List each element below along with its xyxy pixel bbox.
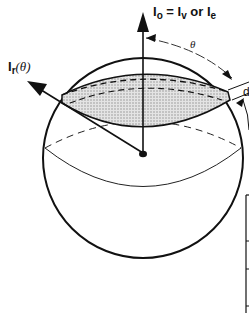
radial-arrowhead (27, 81, 47, 96)
theta-label: θ (190, 38, 195, 50)
vertical-arrowhead (137, 12, 149, 32)
theta-arc (146, 38, 232, 78)
sphere-diagram (0, 0, 249, 313)
theta-arc-arrowhead-bottom (222, 70, 232, 80)
reflected-intensity-label: Ir(θ) (8, 60, 31, 76)
dtheta-arrowhead (236, 98, 244, 107)
incident-intensity-label: Io = Iv or Ie (153, 5, 216, 21)
center-dot (139, 151, 147, 157)
d-theta-label: d (243, 86, 249, 98)
theta-arc-arrowhead-top (146, 34, 156, 42)
outer-arc (243, 100, 249, 130)
